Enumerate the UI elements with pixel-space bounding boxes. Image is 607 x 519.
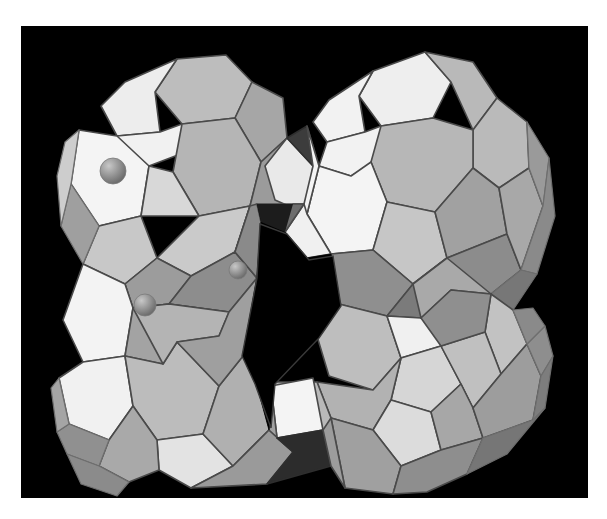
cation-sphere-3 — [134, 294, 156, 316]
cation-sphere-2 — [229, 261, 247, 279]
cation-sphere-1 — [100, 158, 126, 184]
image-frame — [21, 26, 588, 498]
render-canvas — [21, 26, 588, 498]
figure-root: Zeolite framework polyhedral model — [0, 0, 607, 519]
